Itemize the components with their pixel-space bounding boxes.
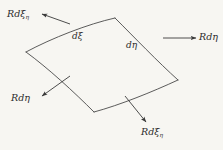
- label-bottom-right-base: Rdξ: [141, 126, 159, 137]
- label-top-left-subscript: η: [26, 14, 30, 20]
- label-bottom-left-base: Rdη: [11, 92, 30, 103]
- label-d-eta-text: dη: [126, 40, 137, 50]
- surface-patch-fill: [26, 18, 178, 112]
- label-rd-xi-eta-bottom-right: Rdξη: [141, 127, 163, 139]
- label-right-base: Rdη: [199, 31, 218, 42]
- label-rd-eta-bottom-left: Rdη: [11, 93, 30, 103]
- label-d-xi-text: dξ: [72, 31, 83, 41]
- label-rd-xi-eta-top-left: Rdξη: [7, 9, 29, 21]
- arrow-bottom-right: [125, 96, 146, 122]
- label-rd-eta-right: Rdη: [199, 32, 218, 42]
- label-d-eta-inner: dη: [126, 41, 137, 50]
- arrow-bottom-left: [42, 76, 70, 96]
- arrow-top-left: [42, 14, 70, 24]
- label-bottom-right-subscript: η: [160, 132, 164, 138]
- diagram-canvas: [0, 0, 223, 150]
- label-top-left-base: Rdξ: [7, 8, 25, 19]
- surface-element-diagram: Rdξη Rdη Rdη Rdξη dξ dη: [0, 0, 223, 150]
- label-d-xi-inner: dξ: [72, 32, 83, 41]
